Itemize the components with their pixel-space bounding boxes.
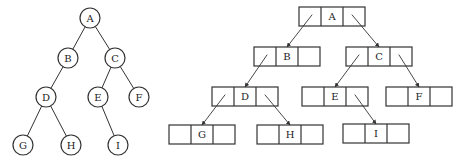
linked-node-F: F — [386, 87, 452, 106]
edge-C-F — [120, 67, 134, 89]
edge-D-G — [27, 106, 41, 136]
tree-node-F: F — [129, 87, 149, 107]
tree-node-A: A — [80, 8, 100, 28]
edge-D-H — [51, 106, 67, 136]
node-label: I — [116, 140, 120, 151]
node-label: A — [85, 13, 94, 24]
edge-A-C — [95, 26, 109, 49]
right-tree-linked-nodes: ABCDEFGHI — [169, 7, 452, 144]
node-data-label: E — [331, 91, 338, 102]
tree-node-B: B — [58, 48, 78, 68]
linked-node-E: E — [302, 87, 368, 106]
linked-node-A: A — [299, 7, 365, 26]
node-data-label: C — [375, 51, 383, 62]
node-data-label: D — [241, 91, 249, 102]
left-tree-circle-nodes: ABCDEFGHI — [13, 8, 149, 155]
linked-node-H: H — [257, 125, 323, 144]
tree-node-I: I — [108, 135, 128, 155]
tree-node-D: D — [36, 87, 56, 107]
node-data-label: I — [374, 128, 378, 139]
edge-E-I — [102, 106, 114, 136]
linked-node-G: G — [169, 125, 235, 144]
edge-B-D — [51, 67, 63, 89]
linked-node-I: I — [343, 124, 409, 143]
node-label: E — [94, 92, 101, 103]
tree-node-C: C — [105, 48, 125, 68]
edge-A-B — [73, 27, 85, 49]
node-label: H — [67, 140, 76, 151]
node-data-label: A — [327, 11, 336, 22]
node-label: F — [136, 92, 143, 103]
linked-node-B: B — [254, 47, 320, 66]
tree-node-G: G — [13, 135, 33, 155]
node-label: B — [64, 53, 71, 64]
tree-node-E: E — [88, 87, 108, 107]
linked-node-D: D — [212, 87, 278, 106]
node-label: D — [42, 92, 50, 103]
node-data-label: B — [283, 51, 290, 62]
tree-node-H: H — [61, 135, 81, 155]
edge-C-E — [102, 67, 111, 88]
node-data-label: G — [198, 129, 206, 140]
node-data-label: F — [416, 91, 423, 102]
node-label: G — [19, 140, 27, 151]
node-label: C — [111, 53, 119, 64]
binary-tree-diagram: ABCDEFGHI ABCDEFGHI — [0, 0, 455, 158]
node-data-label: H — [286, 129, 295, 140]
linked-node-C: C — [346, 47, 412, 66]
